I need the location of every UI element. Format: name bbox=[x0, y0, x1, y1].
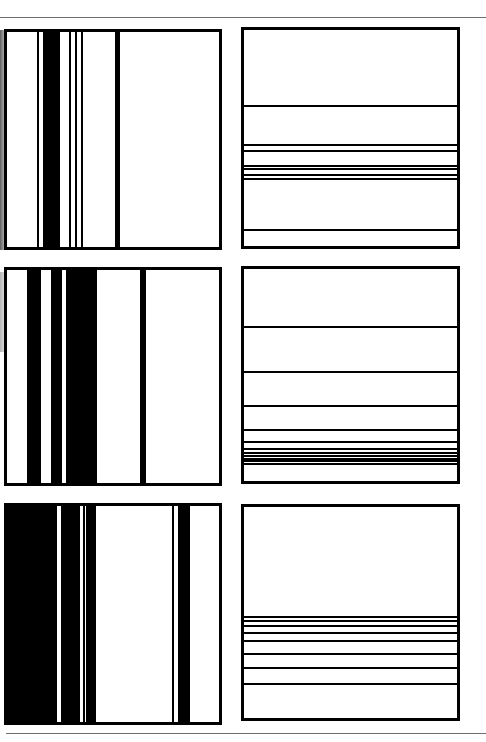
horizontal-stripe bbox=[244, 229, 457, 231]
top-rule bbox=[0, 17, 486, 18]
horizontal-stripe bbox=[244, 144, 457, 146]
horizontal-stripe bbox=[244, 463, 457, 465]
horizontal-stripe bbox=[244, 683, 457, 685]
vertical-stripe bbox=[37, 32, 39, 247]
vertical-stripe bbox=[43, 32, 60, 247]
horizontal-stripe bbox=[244, 326, 457, 328]
panel-top-left bbox=[4, 29, 222, 250]
horizontal-stripe bbox=[244, 667, 457, 669]
horizontal-stripe bbox=[244, 168, 457, 170]
vertical-stripe bbox=[51, 270, 62, 483]
panel-bottom-left bbox=[4, 503, 222, 725]
vertical-stripe bbox=[140, 270, 146, 483]
horizontal-stripe bbox=[244, 616, 457, 618]
vertical-stripe bbox=[172, 506, 174, 722]
horizontal-stripe bbox=[244, 371, 457, 373]
horizontal-stripe bbox=[244, 174, 457, 176]
vertical-stripe bbox=[83, 506, 85, 722]
vertical-stripe bbox=[7, 506, 57, 722]
vertical-stripe bbox=[178, 506, 190, 722]
horizontal-stripe bbox=[244, 448, 457, 450]
panel-bottom-right bbox=[241, 504, 460, 721]
horizontal-stripe bbox=[244, 653, 457, 655]
vertical-stripe bbox=[27, 270, 41, 483]
horizontal-stripe bbox=[244, 150, 457, 152]
horizontal-stripe bbox=[244, 165, 457, 167]
vertical-stripe bbox=[86, 506, 96, 722]
horizontal-stripe bbox=[244, 625, 457, 627]
horizontal-stripe bbox=[244, 429, 457, 431]
panel-middle-right bbox=[241, 266, 460, 484]
horizontal-stripe bbox=[244, 178, 457, 180]
vertical-stripe bbox=[115, 32, 120, 247]
vertical-stripe bbox=[61, 506, 80, 722]
horizontal-stripe bbox=[244, 460, 457, 462]
vertical-stripe bbox=[75, 32, 77, 247]
horizontal-stripe bbox=[244, 620, 457, 622]
vertical-stripe bbox=[66, 270, 97, 483]
horizontal-stripe bbox=[244, 455, 457, 457]
vertical-stripe bbox=[69, 32, 71, 247]
horizontal-stripe bbox=[244, 632, 457, 634]
horizontal-stripe bbox=[244, 452, 457, 454]
vertical-stripe bbox=[81, 32, 83, 247]
horizontal-stripe bbox=[244, 405, 457, 407]
horizontal-stripe bbox=[244, 441, 457, 443]
bottom-rule bbox=[6, 733, 486, 734]
panel-top-right bbox=[241, 27, 460, 249]
panel-middle-left bbox=[4, 267, 222, 486]
horizontal-stripe bbox=[244, 105, 457, 107]
horizontal-stripe bbox=[244, 640, 457, 642]
